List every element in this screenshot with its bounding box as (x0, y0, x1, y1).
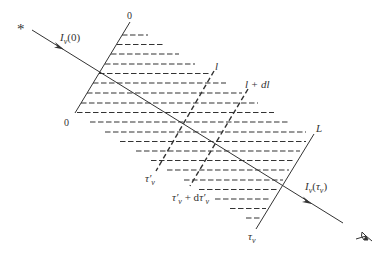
slice-l-line (156, 71, 214, 171)
incident-intensity-label: Iν(0) (59, 31, 80, 46)
path-l-dl-label: l + dl (245, 78, 270, 90)
slice-l-dl-line (190, 89, 248, 186)
tau-prime-label: τ′ν (145, 172, 155, 187)
bottom-zero-label: 0 (64, 117, 69, 128)
emergent-intensity-label: Iν(τν) (304, 180, 327, 195)
eye-icon (356, 232, 372, 241)
arrowhead-icon (54, 42, 64, 50)
radiative-transfer-diagram: * Iν(0) 0 0 l l + dl L τ′ν τ′ν + dτ′ν τν… (0, 0, 392, 255)
tau-prime-dtau-label: τ′ν + dτ′ν (172, 191, 209, 206)
path-l-label: l (215, 60, 218, 72)
star-icon: * (17, 21, 25, 37)
path-L-label: L (315, 122, 322, 134)
diagram-canvas: * Iν(0) 0 0 l l + dl L τ′ν τ′ν + dτ′ν τν… (0, 0, 392, 255)
boundary-0-line (75, 22, 130, 113)
top-zero-label: 0 (127, 10, 132, 21)
tau-total-label: τν (248, 230, 256, 245)
arrowhead-icon (302, 197, 312, 205)
